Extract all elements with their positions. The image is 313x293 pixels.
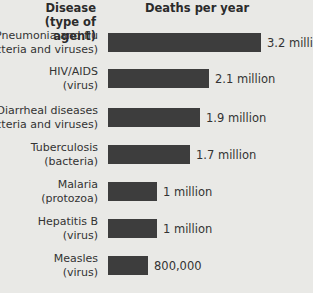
category-label: Hepatitis B(virus) [38,215,98,243]
category-label: HIV/AIDS(virus) [49,65,98,93]
bar-row: Diarrheal diseases(bacteria and viruses)… [0,104,313,140]
bar [108,256,148,275]
agent-type: (protozoa) [41,192,98,206]
value-label: 800,000 [154,259,202,273]
bar [108,108,200,127]
bar [108,145,190,164]
bar [108,182,157,201]
value-label: 1.7 million [196,148,256,162]
agent-type: (bacteria) [31,155,98,169]
agent-type: (bacteria and viruses) [0,43,98,57]
bar [108,33,261,52]
value-label: 3.2 million [267,36,313,50]
bar-row: Pneumonia and flu(bacteria and viruses)3… [0,29,313,65]
bar [108,69,209,88]
category-label: Malaria(protozoa) [41,178,98,206]
value-label: 1 million [163,185,212,199]
agent-type: (virus) [54,266,98,280]
disease-name: Malaria [41,178,98,192]
deaths-column-header: Deaths per year [145,1,249,15]
category-label: Measles(virus) [54,252,98,280]
disease-name: Measles [54,252,98,266]
bar [108,219,157,238]
agent-type: (virus) [38,229,98,243]
agent-type: (bacteria and viruses) [0,118,98,132]
agent-type: (virus) [49,79,98,93]
bar-row: HIV/AIDS(virus)2.1 million [0,65,313,101]
disease-name: Pneumonia and flu [0,29,98,43]
category-label: Tuberculosis(bacteria) [31,141,98,169]
category-label: Pneumonia and flu(bacteria and viruses) [0,29,98,57]
disease-name: Diarrheal diseases [0,104,98,118]
bar-row: Measles(virus)800,000 [0,252,313,288]
disease-name: Tuberculosis [31,141,98,155]
category-label: Diarrheal diseases(bacteria and viruses) [0,104,98,132]
disease-name: HIV/AIDS [49,65,98,79]
disease-name: Hepatitis B [38,215,98,229]
value-label: 1 million [163,222,212,236]
bar-row: Malaria(protozoa)1 million [0,178,313,214]
bar-row: Tuberculosis(bacteria)1.7 million [0,141,313,177]
value-label: 2.1 million [215,72,275,86]
bar-row: Hepatitis B(virus)1 million [0,215,313,251]
value-label: 1.9 million [206,111,266,125]
header-line: Disease [0,1,96,15]
